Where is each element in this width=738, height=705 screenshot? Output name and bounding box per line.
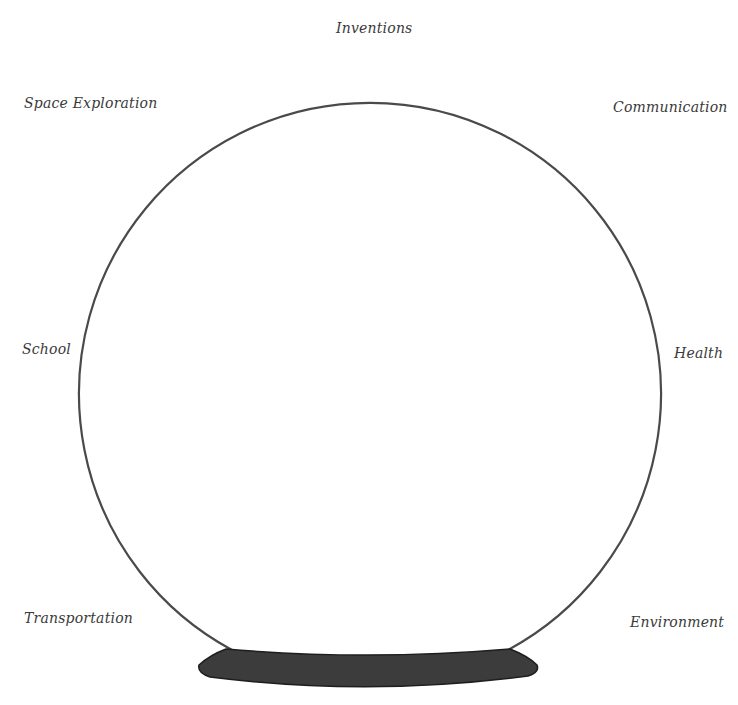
crystal-ball-organizer: Inventions Space Exploration Communicati… (0, 0, 738, 705)
label-transportation: Transportation (24, 610, 133, 626)
label-health: Health (674, 345, 723, 361)
label-communication: Communication (613, 99, 728, 115)
label-inventions: Inventions (336, 20, 413, 36)
label-space-exploration: Space Exploration (24, 95, 157, 111)
label-environment: Environment (630, 614, 724, 630)
crystal-ball-outline (79, 103, 661, 650)
label-school: School (22, 341, 71, 357)
crystal-ball-base (199, 649, 538, 687)
